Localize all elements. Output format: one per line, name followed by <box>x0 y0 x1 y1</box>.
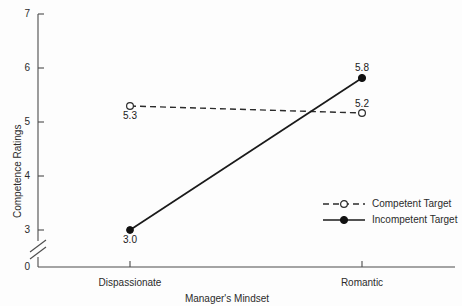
legend-item-incompetent-target: Incompetent Target <box>322 212 458 228</box>
x-axis-title: Manager's Mindset <box>147 293 307 305</box>
chart-legend: Competent Target Incompetent Target <box>322 196 458 228</box>
series-line-competent-target <box>130 106 362 113</box>
data-label-incompetent-romantic: 5.8 <box>348 62 376 73</box>
y-axis-title: Competence Ratings <box>12 125 24 218</box>
y-tick-label-0: 0 <box>10 261 30 272</box>
data-label-competent-dispassionate: 5.3 <box>116 110 144 121</box>
x-category-label-dispassionate: Dispassionate <box>70 277 190 289</box>
axis-break-mark-upper <box>30 240 46 252</box>
legend-item-competent-target: Competent Target <box>322 196 458 212</box>
data-point-incompetent-dispassionate <box>127 227 134 234</box>
legend-label-incompetent-target: Incompetent Target <box>372 214 457 226</box>
data-point-incompetent-romantic <box>358 74 365 81</box>
x-category-label-romantic: Romantic <box>312 277 412 289</box>
chart-figure: 7 6 5 4 3 0 Competence Ratings Dispassio… <box>0 0 462 306</box>
legend-swatch-incompetent-target <box>322 212 366 228</box>
chart-plot-area <box>0 0 462 306</box>
legend-swatch-competent-target <box>322 196 366 212</box>
data-label-competent-romantic: 5.2 <box>348 98 376 109</box>
data-point-competent-dispassionate <box>127 103 134 110</box>
y-tick-label-6: 6 <box>10 62 30 73</box>
data-label-incompetent-dispassionate: 3.0 <box>116 234 144 245</box>
legend-label-competent-target: Competent Target <box>372 198 451 210</box>
y-tick-label-3: 3 <box>10 224 30 235</box>
data-point-competent-romantic <box>359 110 366 117</box>
y-tick-label-7: 7 <box>10 8 30 19</box>
